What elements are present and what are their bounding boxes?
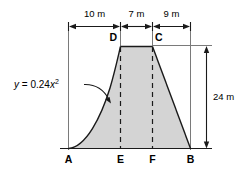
equation-leader-line [84, 84, 109, 99]
point-label-d: D [109, 31, 117, 43]
arrowhead-10m-left [69, 24, 76, 29]
arrowhead-9m-right [183, 24, 190, 29]
equation-sign: = [19, 79, 30, 90]
equation-label: y = 0.24x2 [13, 78, 59, 90]
figure-container: 10 m 7 m 9 m D C 24 m y = 0.24x2 [0, 0, 248, 177]
arrowhead-7m-right [145, 24, 152, 29]
equation-exponent: 2 [55, 78, 59, 85]
top-dimension-row [69, 22, 191, 31]
arrowhead-24m-bottom [204, 142, 209, 149]
dimension-label-24m: 24 m [213, 91, 234, 102]
arrowhead-9m-left [153, 24, 160, 29]
dimension-label-10m: 10 m [84, 8, 105, 19]
point-label-a: A [65, 153, 73, 165]
point-label-f: F [149, 153, 156, 165]
dimension-label-7m: 7 m [129, 8, 145, 19]
dimension-label-9m: 9 m [164, 8, 180, 19]
point-label-b: B [187, 153, 195, 165]
diagram-svg: 10 m 7 m 9 m D C 24 m y = 0.24x2 [0, 0, 248, 177]
point-label-e: E [117, 153, 124, 165]
arrowhead-10m-right [113, 24, 120, 29]
arrowhead-24m-top [204, 46, 209, 53]
arrowhead-7m-left [121, 24, 128, 29]
right-dimension [204, 46, 209, 149]
point-label-c: C [155, 31, 163, 43]
equation-coefficient: 0.24 [30, 79, 50, 90]
